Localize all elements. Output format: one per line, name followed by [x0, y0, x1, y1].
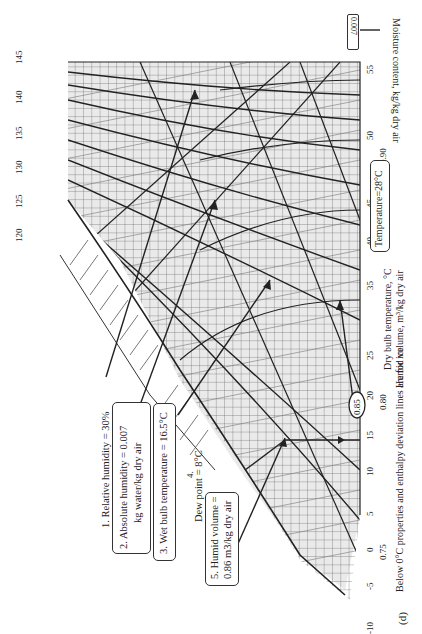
tick: 50 — [365, 131, 375, 140]
enthalpy-tick: 140 — [14, 91, 24, 105]
footnote: Below 0°C properties and enthalpy deviat… — [394, 347, 405, 592]
enthalpy-tick: 125 — [14, 195, 24, 209]
annotation-humid-volume: 5. Humid volume = 0.86 m3/kg dry air — [205, 492, 239, 586]
enthalpy-tick: 135 — [14, 127, 24, 141]
enthalpy-tick: 145 — [14, 51, 24, 65]
annotation-absolute-humidity: 2. Absolute humidity = 0.007 kg water/kg… — [112, 402, 151, 554]
enthalpy-tick: 120 — [14, 229, 24, 243]
tick: 5 — [365, 512, 375, 517]
tick: 55 — [365, 65, 375, 74]
abs-humidity-line2: kg water/kg dry air — [132, 443, 143, 523]
enthalpy-tick: 130 — [14, 161, 24, 175]
moisture-highlight-text: 0.007 — [349, 17, 358, 35]
tick: -10 — [365, 622, 375, 634]
abs-humidity-line1: 2. Absolute humidity = 0.007 — [118, 426, 129, 549]
humid-volume-tick: 0.75 — [378, 544, 388, 560]
dew-point-marker: 4. — [185, 471, 195, 478]
temperature-text: Temperature=28°C — [373, 170, 384, 247]
tick: 35 — [365, 281, 375, 290]
moisture-axis-title: Moisture content, kg/kg dry air — [391, 18, 402, 143]
moisture-axis-label: Moisture content, kg/kg dry air — [402, 18, 422, 29]
tick: 20 — [365, 391, 375, 400]
humid-volume-tick: 0.80 — [378, 394, 388, 410]
humid-volume-value: 0.85 — [352, 399, 362, 415]
annotation-dew-point: Dew point = 8°C — [193, 450, 204, 522]
humid-volume-line2: 0.86 m3/kg dry air — [222, 501, 233, 579]
tick: 15 — [365, 431, 375, 440]
tick: 0 — [365, 548, 375, 553]
tick: 25 — [365, 351, 375, 360]
wet-bulb-text: 3. Wet bulb temperature = 16.5°C — [158, 412, 169, 554]
humid-volume-line1: 5. Humid volume = — [209, 497, 220, 579]
annotation-relative-humidity: 1. Relative humidity = 30% — [100, 412, 111, 528]
tick: -5 — [365, 583, 375, 591]
tick: 10 — [365, 467, 375, 476]
moisture-highlight: 0.007 — [347, 14, 359, 50]
annotation-wet-bulb: 3. Wet bulb temperature = 16.5°C — [153, 403, 176, 561]
panel-label: (d) — [396, 612, 408, 625]
dry-bulb-axis-title: Dry bulb temperature, °C — [382, 268, 393, 370]
annotation-temperature: Temperature=28°C — [370, 160, 390, 252]
